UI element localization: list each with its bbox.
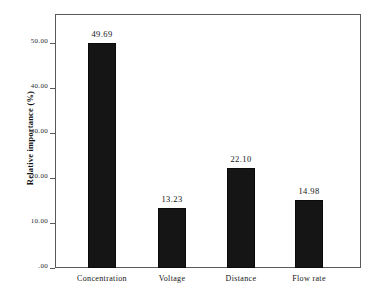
y-tick-label-0: .00: [38, 262, 48, 270]
x-category-voltage: Voltage: [142, 274, 202, 283]
bar-value-distance: 22.10: [216, 154, 266, 164]
y-tick-50: 50.00: [0, 43, 55, 44]
y-tick-label-10: 10.00: [31, 217, 48, 225]
y-tick-mark-0: [50, 268, 55, 269]
y-tick-30: 30.00: [0, 133, 55, 134]
bar-voltage: [158, 208, 186, 268]
bar-flow-rate: [295, 200, 323, 268]
bar-value-flow-rate: 14.98: [284, 186, 334, 196]
x-category-distance: Distance: [211, 274, 271, 283]
y-tick-40: 40.00: [0, 88, 55, 89]
y-tick-label-20: 20.00: [31, 172, 48, 180]
y-tick-label-50: 50.00: [31, 37, 48, 45]
bar-value-voltage: 13.23: [147, 194, 197, 204]
y-tick-10: 10.00: [0, 223, 55, 224]
x-category-concentration: Concentration: [62, 274, 142, 283]
y-tick-0: .00: [0, 268, 55, 269]
x-category-flow-rate: Flow rate: [279, 274, 339, 283]
bar-distance: [227, 168, 255, 268]
bar-chart-figure: Relative importance (%) .00 10.00 20.00 …: [0, 0, 378, 298]
y-tick-label-40: 40.00: [31, 82, 48, 90]
y-tick-label-30: 30.00: [31, 127, 48, 135]
y-tick-20: 20.00: [0, 178, 55, 179]
bar-value-concentration: 49.69: [77, 29, 127, 39]
bar-concentration: [88, 43, 116, 268]
